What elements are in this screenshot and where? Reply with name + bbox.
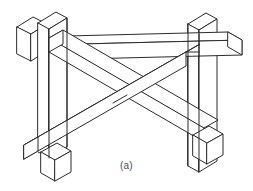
isometric-frame-drawing bbox=[0, 0, 253, 191]
figure-container: (a) bbox=[0, 0, 253, 191]
